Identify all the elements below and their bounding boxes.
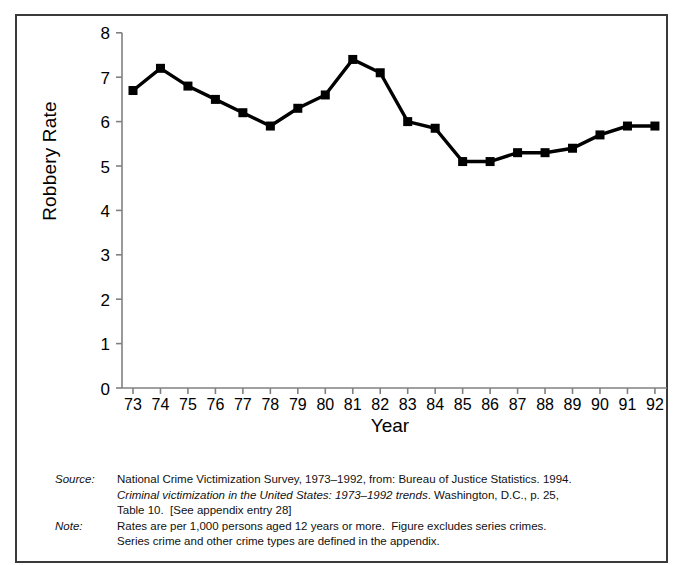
note-line-1: Rates are per 1,000 persons aged 12 year… [117,519,655,535]
x-tick-label: 77 [234,396,252,413]
x-tick-label: 74 [152,396,170,413]
source-text: National Crime Victimization Survey, 197… [117,472,655,519]
note-row: Note: Rates are per 1,000 persons aged 1… [55,519,655,550]
x-axis-title: Year [120,415,660,437]
data-point-marker [211,95,220,104]
note-line-2: Series crime and other crime types are d… [117,534,655,550]
x-tick-label: 82 [371,396,389,413]
y-tick-label: 0 [101,380,110,399]
x-tick-label: 90 [591,396,609,413]
chart-axes [116,33,667,394]
data-point-marker [376,68,385,77]
data-point-marker [486,157,495,166]
y-tick-label: 1 [101,335,110,354]
x-tick-label: 75 [179,396,197,413]
x-tick-label: 80 [316,396,334,413]
x-tick-label: 83 [399,396,417,413]
x-tick-label: 84 [426,396,444,413]
x-tick-label: 73 [124,396,142,413]
x-tick-label: 91 [619,396,637,413]
data-point-marker [595,130,604,139]
data-point-marker [266,122,275,131]
data-point-marker [541,148,550,157]
data-point-marker [650,122,659,131]
data-point-marker [321,90,330,99]
x-tick-label: 89 [564,396,582,413]
footnote-block: Source: National Crime Victimization Sur… [55,472,655,550]
chart-plot-svg: 012345678 737475767778798081828384858687… [0,0,683,470]
x-tick-label: 86 [481,396,499,413]
data-point-marker [403,117,412,126]
data-point-marker [156,64,165,73]
data-point-marker [458,157,467,166]
x-tick-label: 78 [261,396,279,413]
x-tick-label: 92 [646,396,664,413]
y-tick-label: 2 [101,291,110,310]
y-tick-label: 4 [101,202,110,221]
x-tick-labels: 7374757677787980818283848586878889909192 [124,396,664,413]
note-text: Rates are per 1,000 persons aged 12 year… [117,519,655,550]
y-tick-label: 7 [101,69,110,88]
y-tick-label: 6 [101,113,110,132]
data-point-markers [129,55,660,166]
y-tick-labels: 012345678 [101,24,110,398]
source-line-2: Criminal victimization in the United Sta… [117,488,655,504]
source-note-row: Source: National Crime Victimization Sur… [55,472,655,519]
x-tick-label: 87 [509,396,527,413]
data-point-marker [568,144,577,153]
data-point-marker [513,148,522,157]
data-point-marker [129,86,138,95]
data-point-marker [431,124,440,133]
x-tick-label: 81 [344,396,362,413]
note-label: Note: [55,519,117,535]
data-point-marker [348,55,357,64]
data-point-marker [293,104,302,113]
y-axis-title: Robbery Rate [39,51,61,271]
source-title-italic: Criminal victimization in the United Sta… [117,489,428,501]
x-tick-label: 76 [207,396,225,413]
y-tick-label: 8 [101,24,110,43]
data-point-marker [238,108,247,117]
source-line-2-rest: . Washington, D.C., p. 25, [428,489,559,501]
robbery-rate-line-chart: 012345678 737475767778798081828384858687… [0,0,683,470]
source-label: Source: [55,472,117,488]
source-line-3: Table 10. [See appendix entry 28] [117,503,655,519]
source-line-1: National Crime Victimization Survey, 197… [117,472,655,488]
y-tick-label: 5 [101,158,110,177]
y-tick-label: 3 [101,246,110,265]
x-tick-label: 79 [289,396,307,413]
figure-root: 012345678 737475767778798081828384858687… [0,0,683,565]
data-point-marker [623,122,632,131]
x-tick-label: 85 [454,396,472,413]
x-tick-label: 88 [536,396,554,413]
data-point-marker [183,82,192,91]
